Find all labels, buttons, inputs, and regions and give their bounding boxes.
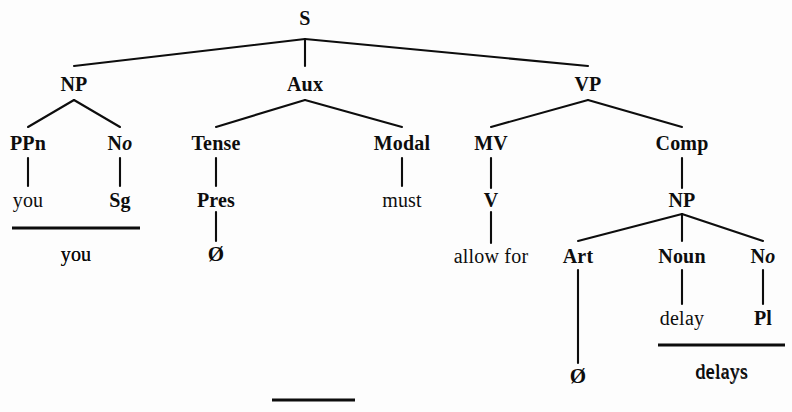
tree-node-mv: MV [474,133,508,153]
tree-node-sg: Sg [109,190,131,210]
tree-node-null2: Ø [570,366,587,387]
tree-branch [28,100,74,127]
tree-node-tense: Tense [191,133,240,153]
tree-branch [305,39,588,66]
tree-node-ppn: PPn [10,133,46,153]
tree-branch [682,214,763,241]
tree-branch [305,100,402,127]
tree-node-art: Art [563,246,594,266]
tree-node-no1: No [108,133,133,153]
tree-node-np2: NP [668,190,695,210]
tree-branch [491,100,588,127]
tree-node-comp: Comp [655,133,708,153]
tree-branch [74,100,120,127]
tree-node-s: S [299,8,310,28]
tree-node-no2: No [751,246,776,266]
tree-node-np1: NP [60,74,87,94]
tree-node-delay: delay [660,308,704,328]
tree-node-allowfor: allow for [454,246,529,266]
tree-node-noun: Noun [658,246,706,266]
tree-branch [588,100,682,127]
tree-node-v: V [484,190,499,210]
tree-node-you: you [13,190,44,210]
tree-branch [216,100,305,127]
morpheme-result-bar-you: you [61,244,92,264]
tree-node-aux: Aux [287,74,323,94]
phrase-structure-tree-figure: SNPAuxVPPPnNoTenseModalMVCompyouSgPresmu… [0,0,792,412]
tree-node-pl: Pl [754,308,772,328]
tree-node-pres: Pres [197,190,235,210]
tree-node-must: must [382,190,422,210]
tree-node-vp: VP [574,74,601,94]
morpheme-result-bar-delays: delays [695,361,747,381]
tree-node-modal: Modal [374,133,431,153]
tree-branch [74,39,305,66]
tree-node-null1: Ø [208,244,225,265]
tree-branch [578,214,682,241]
